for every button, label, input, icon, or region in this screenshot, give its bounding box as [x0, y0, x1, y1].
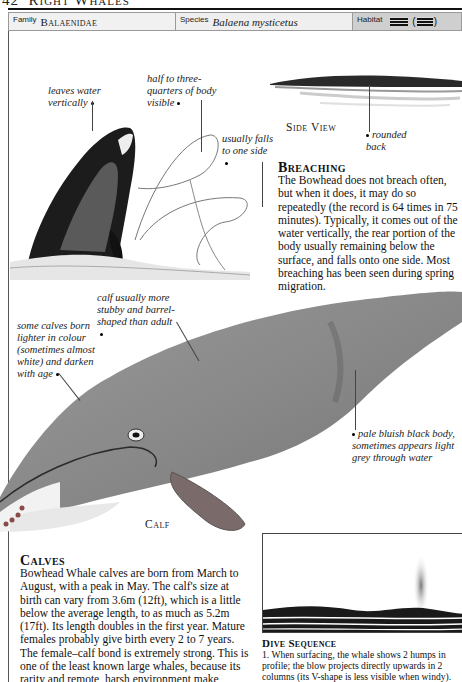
- secondary-habitat: ( ): [412, 16, 437, 27]
- calf-caption: Calf: [145, 518, 170, 530]
- habitat-cell: Habitat ( ): [353, 13, 461, 30]
- dive-sequence-illustration: [262, 533, 462, 633]
- leader-line: [92, 101, 93, 131]
- leader-line: [201, 100, 202, 152]
- family-label: Family: [13, 15, 37, 24]
- side-view-illustration: [270, 65, 462, 115]
- species-value: Balaena mysticetus: [212, 16, 297, 28]
- breaching-body: The Bowhead does not breach often, but w…: [278, 174, 462, 294]
- annotation-rounded-back: rounded back: [366, 129, 416, 153]
- open-ocean-icon: [390, 17, 408, 26]
- family-cell: Family Balaenidae: [9, 13, 176, 30]
- species-cell: Species Balaena mysticetus: [176, 13, 353, 30]
- breaching-whale-illustration: [0, 80, 260, 280]
- family-value: Balaenidae: [41, 16, 98, 28]
- annotation-body-colour: pale bluish black body, sometimes appear…: [352, 428, 462, 464]
- annotation-body-visible: half to three-quarters of body visible: [147, 73, 222, 109]
- coastal-waters-icon: [417, 17, 433, 26]
- dive-sequence-body: 1. When surfacing, the whale shows 2 hum…: [262, 649, 462, 682]
- annotation-leaves-water: leaves water vertically: [48, 85, 128, 109]
- species-label: Species: [180, 15, 208, 24]
- annotation-falls-side: usually falls to one side: [222, 133, 274, 169]
- dive-sequence-title: Dive Sequence: [262, 637, 337, 649]
- leader-line: [369, 85, 370, 132]
- side-view-caption: Side View: [286, 121, 336, 133]
- leader-line: [262, 162, 263, 207]
- info-bar: Family Balaenidae Species Balaena mystic…: [8, 12, 462, 31]
- leader-line: [355, 370, 356, 430]
- habitat-label: Habitat: [357, 15, 382, 24]
- page-header: 42 Right Whales: [0, 0, 462, 6]
- header-rule: [8, 8, 462, 10]
- calves-body: Bowhead Whale calves are born from March…: [20, 567, 252, 682]
- annotation-calf-shape: calf usually more stubby and barrel-shap…: [97, 292, 177, 340]
- annotation-calf-colour: some calves born lighter in colour (some…: [17, 320, 95, 380]
